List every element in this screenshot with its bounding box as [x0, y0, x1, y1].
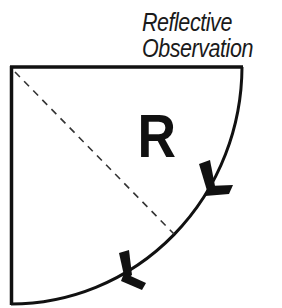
quadrant-letter: R [138, 101, 177, 170]
quadrant-label: Reflective Observation [142, 8, 253, 62]
label-line-reflective: Reflective [142, 8, 232, 36]
reflective-observation-quadrant-diagram: Reflective Observation R [0, 0, 282, 308]
label-line-observation: Observation [142, 34, 253, 62]
